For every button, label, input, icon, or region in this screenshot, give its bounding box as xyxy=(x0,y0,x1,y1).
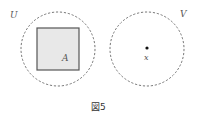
set-v-label: V xyxy=(180,9,188,19)
set-a-square xyxy=(37,28,79,70)
point-x-label: x xyxy=(144,53,149,62)
set-u-label: U xyxy=(10,10,18,20)
point-x-dot xyxy=(145,46,148,49)
set-a-label: A xyxy=(61,53,69,63)
figure-5-diagram: U A x V 図5 xyxy=(0,0,199,121)
figure-caption: 図5 xyxy=(91,102,106,112)
